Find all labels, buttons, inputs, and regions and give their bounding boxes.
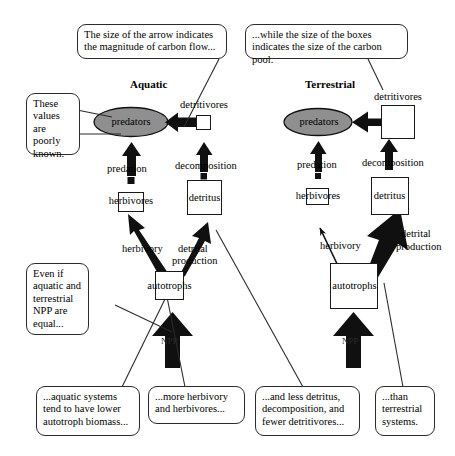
callout-poorly-known: These values are poorly known.	[26, 93, 80, 155]
aquatic-detritus-label: detritus	[182, 192, 227, 203]
terrestrial-herbivory-label: herbivory	[320, 240, 361, 252]
diagram-canvas: Aquatic Terrestrial predators detritivor…	[0, 0, 455, 456]
terrestrial-herbivores-stub	[315, 173, 321, 179]
aquatic-npp-label: NPP	[161, 336, 178, 346]
terrestrial-decomposition-to-predators-arrow	[352, 112, 381, 133]
aquatic-detrital-production-line1: detrital	[178, 243, 208, 255]
terrestrial-detritivores-box	[381, 105, 415, 139]
terrestrial-autotrophs-label: autotrophs	[321, 280, 388, 291]
callout-more-herbivory: ...more herbivory and herbivores...	[148, 386, 245, 424]
aquatic-section-title: Aquatic	[130, 78, 167, 90]
terrestrial-predators-label: predators	[289, 116, 349, 127]
terrestrial-detrital-production-line1: detrital	[401, 228, 431, 240]
aquatic-herbivores-label: herbivores	[98, 195, 164, 206]
aquatic-decomposition-label: decomposition	[175, 160, 237, 172]
aquatic-detritivores-label: detritivores	[174, 99, 234, 110]
aquatic-detritivores-box	[196, 115, 211, 130]
aquatic-predation-label: predation	[107, 163, 147, 175]
aquatic-detrital-production-line2: production	[172, 255, 218, 267]
callout-lower-autotroph-biomass: ...aquatic systems tend to have lower au…	[36, 386, 140, 436]
terrestrial-detritivores-label: detritivores	[368, 91, 428, 102]
aquatic-herbivory-label: herbivory	[122, 243, 163, 255]
aquatic-herbivores-stub	[128, 177, 135, 184]
terrestrial-detritus-label: detritus	[367, 190, 412, 201]
terrestrial-predation-label: predation	[297, 159, 337, 171]
terrestrial-detrital-production-line2: production	[396, 241, 442, 253]
aquatic-detritus-stub	[201, 173, 208, 180]
callout-npp-equal: Even if aquatic and terrestrial NPP are …	[26, 263, 89, 335]
aquatic-autotrophs-label: autotrophs	[136, 280, 203, 291]
callout-box-size: ...while the size of the boxes indicates…	[245, 24, 408, 59]
terrestrial-decomposition-label: decomposition	[362, 157, 424, 169]
aquatic-predators-label: predators	[101, 116, 161, 127]
terrestrial-herbivores-label: herbivores	[285, 190, 351, 201]
terrestrial-npp-label: NPP	[342, 336, 359, 346]
terrestrial-section-title: Terrestrial	[305, 78, 355, 90]
callout-arrow-size: The size of the arrow indicates the magn…	[77, 24, 227, 59]
aquatic-decomposition-to-predators-arrow	[165, 113, 196, 133]
callout-less-detritus: ...and less detritus, decomposition, and…	[255, 386, 360, 436]
callout-than-terrestrial: ...than terrestrial systems.	[375, 386, 435, 436]
